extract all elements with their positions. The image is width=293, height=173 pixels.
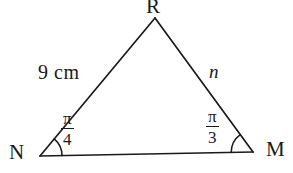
side-NR-line <box>40 18 155 156</box>
side-length-label-RM: n <box>209 62 219 81</box>
vertex-label-N: N <box>9 142 24 163</box>
fraction-bar <box>206 126 219 127</box>
fraction-denominator: 3 <box>206 128 219 146</box>
fraction-bar <box>61 128 74 129</box>
side-RM-line <box>155 18 253 152</box>
fraction-denominator: 4 <box>61 130 74 148</box>
fraction-numerator: π <box>206 108 219 126</box>
angle-measure-N: π 4 <box>61 110 74 148</box>
vertex-label-M: M <box>266 139 285 160</box>
fraction-pi-over-4: π 4 <box>61 110 74 148</box>
side-length-label-NR: 9 cm <box>38 62 79 82</box>
triangle-drawing <box>0 0 293 173</box>
fraction-numerator: π <box>61 110 74 128</box>
angle-measure-M: π 3 <box>206 108 219 146</box>
vertex-label-R: R <box>146 0 160 17</box>
fraction-pi-over-3: π 3 <box>206 108 219 146</box>
triangle-figure: R N M 9 cm n π 4 π 3 <box>0 0 293 173</box>
angle-arc-M <box>231 135 240 153</box>
side-NM-base-line <box>40 152 253 156</box>
